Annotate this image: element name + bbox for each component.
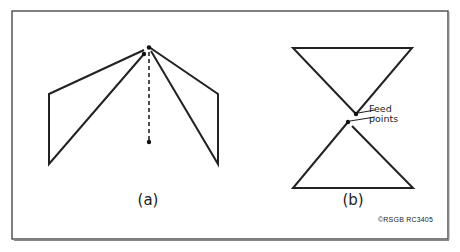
antenna-diagram [0,0,460,252]
feed-point-dot-bottom [346,120,350,124]
right-wing [149,47,218,164]
apex-feed-dot-2 [142,52,146,56]
panel-a-inverted-v-antenna [49,47,218,164]
panel-b-caption: (b) [342,191,363,209]
copyright-notice: ©RSGB RC3405 [378,216,433,223]
feed-point-dot-top [354,112,358,116]
panel-a-caption: (a) [138,191,159,209]
bottom-triangle [293,122,413,188]
left-wing [49,50,144,164]
mast-base-dot [147,140,151,144]
feed-label-line2: points [369,114,398,124]
figure-frame [12,11,448,239]
apex-feed-dot [147,45,151,49]
feed-points-annotation: Feed points [369,104,398,124]
